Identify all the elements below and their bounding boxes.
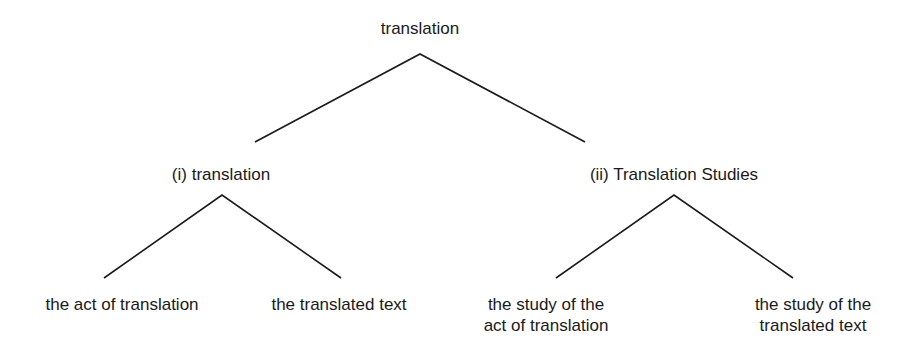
- root-node: translation: [381, 18, 459, 39]
- leaf-translated-text: the translated text: [271, 294, 406, 315]
- leaf-line: the study of the: [755, 294, 871, 315]
- leaf-act-of-translation: the act of translation: [45, 294, 198, 315]
- leaf-study-of-act: the study of the act of translation: [484, 294, 609, 336]
- edge-translation-studies: [556, 195, 793, 278]
- leaf-line: the act of translation: [45, 294, 198, 315]
- node-translation-studies: (ii) Translation Studies: [590, 164, 758, 185]
- edge-translation: [104, 195, 341, 278]
- leaf-line: act of translation: [484, 315, 609, 336]
- leaf-line: the study of the: [484, 294, 609, 315]
- leaf-study-of-text: the study of the translated text: [755, 294, 871, 336]
- leaf-line: translated text: [755, 315, 871, 336]
- edge-root: [255, 54, 585, 142]
- leaf-line: the translated text: [271, 294, 406, 315]
- node-translation: (i) translation: [172, 164, 270, 185]
